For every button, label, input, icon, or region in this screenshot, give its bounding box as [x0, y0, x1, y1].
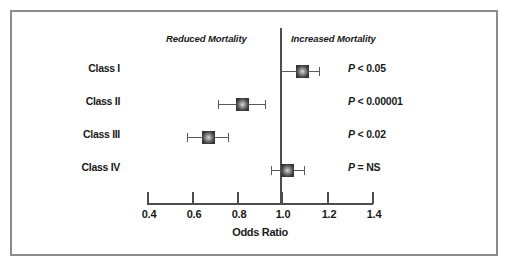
x-tick-mark-3: [281, 192, 283, 204]
x-tick-label-1: 0.6: [174, 208, 214, 220]
plot-area: Reduced Mortality Increased Mortality Cl…: [0, 0, 514, 274]
point-estimate-class-i: [296, 65, 309, 78]
x-tick-mark-1: [192, 192, 194, 204]
x-axis-title: Odds Ratio: [160, 226, 360, 238]
x-tick-mark-4: [327, 192, 329, 204]
x-tick-label-5: 1.4: [354, 208, 394, 220]
p-text-class-iii: < 0.02: [355, 128, 386, 140]
x-tick-mark-2: [237, 192, 239, 204]
x-tick-label-0: 0.4: [129, 208, 169, 220]
x-tick-mark-0: [147, 192, 149, 204]
ci-cap-right-class-i: [319, 67, 320, 76]
column-header-increased-mortality: Increased Mortality: [291, 33, 376, 44]
ci-cap-right-class-iii: [228, 133, 229, 142]
p-symbol-class-ii: P: [348, 95, 355, 107]
forest-plot-figure: Reduced Mortality Increased Mortality Cl…: [0, 0, 514, 274]
p-text-class-i: < 0.05: [355, 62, 386, 74]
row-label-class-i: Class I: [10, 62, 120, 74]
x-axis-line: [147, 203, 373, 205]
column-header-reduced-mortality: Reduced Mortality: [166, 33, 247, 44]
ci-cap-right-class-ii: [265, 100, 266, 109]
p-value-class-i: P < 0.05: [348, 62, 386, 74]
x-tick-mark-5: [372, 192, 374, 204]
p-value-class-iv: P = NS: [348, 161, 380, 173]
p-text-class-ii: < 0.00001: [355, 95, 403, 107]
ci-cap-left-class-iii: [187, 133, 188, 142]
ci-cap-left-class-iv: [271, 166, 272, 175]
point-estimate-class-ii: [236, 98, 249, 111]
x-tick-label-4: 1.2: [309, 208, 349, 220]
p-value-class-iii: P < 0.02: [348, 128, 386, 140]
row-label-class-ii: Class II: [10, 95, 120, 107]
point-estimate-class-iii: [202, 131, 215, 144]
p-symbol-class-iii: P: [348, 128, 355, 140]
ci-cap-right-class-iv: [304, 166, 305, 175]
p-text-class-iv: = NS: [355, 161, 381, 173]
p-symbol-class-iv: P: [348, 161, 355, 173]
row-label-class-iv: Class IV: [10, 161, 120, 173]
x-tick-label-3: 1.0: [263, 208, 303, 220]
row-label-class-iii: Class III: [10, 128, 120, 140]
p-symbol-class-i: P: [348, 62, 355, 74]
x-tick-label-2: 0.8: [219, 208, 259, 220]
ci-cap-left-class-ii: [218, 100, 219, 109]
p-value-class-ii: P < 0.00001: [348, 95, 403, 107]
point-estimate-class-iv: [281, 164, 294, 177]
